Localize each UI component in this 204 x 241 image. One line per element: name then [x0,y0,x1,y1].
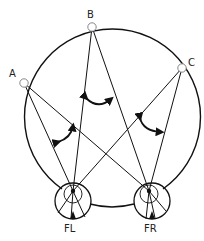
label-c: C [188,58,195,68]
angle-arrow-c [140,118,161,132]
source-b-node [88,23,96,31]
ear-fl-pivot [71,189,75,193]
label-fl: FL [64,224,75,234]
diagram-canvas [0,0,204,241]
label-a: A [9,69,16,79]
label-b: B [87,10,94,20]
source-a-node [20,79,28,87]
lines-to-fr [24,27,182,219]
source-c-node [178,64,186,72]
head-connector [90,204,134,207]
angle-arrow-b [86,98,111,104]
angle-arrow-a [58,126,73,142]
ear-fr-pivot [147,189,151,193]
listening-circle [24,29,200,189]
lines-to-fl [24,27,182,219]
label-fr: FR [144,224,157,234]
